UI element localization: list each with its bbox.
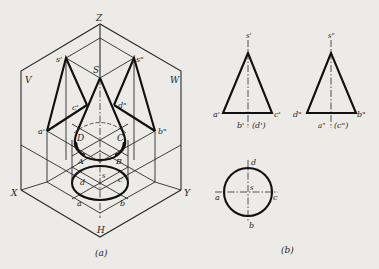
front-right-label: c' xyxy=(274,110,281,119)
side-center-label-2: (c") xyxy=(334,121,348,130)
side-view-triangle xyxy=(307,53,356,113)
front-view: s' a' c' b' (d') xyxy=(213,32,281,130)
label-S: S xyxy=(93,65,99,75)
side-view: s" d" b" a" (c") xyxy=(293,32,366,130)
label-z: Z xyxy=(95,13,103,23)
label-s: s xyxy=(102,172,106,180)
top-view-d-label: d xyxy=(251,158,256,167)
label-x: X xyxy=(10,188,18,198)
top-view-a-label: a xyxy=(215,193,220,202)
front-center-label-1: b' xyxy=(237,121,244,130)
label-s-prime: s' xyxy=(56,55,62,64)
side-apex-label: s" xyxy=(328,32,335,40)
top-view-c-label: c xyxy=(273,193,278,202)
line-ground-right xyxy=(155,182,181,190)
label-d-double: d" xyxy=(118,101,127,110)
front-left-label: a' xyxy=(213,110,220,119)
cone-projection-figure: Z V W X Y H s' s" S c' d" a' b" D C A B … xyxy=(0,0,379,269)
cone-left-edge xyxy=(75,78,100,155)
label-y: Y xyxy=(184,188,191,198)
label-s-double: s" xyxy=(136,55,144,64)
side-center-label-1: a" xyxy=(318,122,325,130)
label-plane-v: V xyxy=(25,75,33,85)
front-view-triangle xyxy=(223,53,272,113)
label-b-double: b" xyxy=(158,127,167,136)
top-view: d b a c s xyxy=(215,158,278,230)
label-plane-w: W xyxy=(170,75,180,85)
label-plane-h: H xyxy=(96,225,105,235)
label-B: B xyxy=(115,157,122,166)
label-a-prime: a' xyxy=(38,127,45,136)
label-c-prime: c' xyxy=(72,103,79,112)
figure-a-isometric-projection: Z V W X Y H s' s" S c' d" a' b" D C A B … xyxy=(10,13,191,258)
figure-b-orthographic-views: s' a' c' b' (d') s" d" b" a" (c") d b a … xyxy=(213,32,366,255)
label-c: c xyxy=(118,175,123,184)
label-d: d xyxy=(80,178,85,187)
side-right-label: b" xyxy=(357,110,366,119)
front-apex-label: s' xyxy=(246,32,252,40)
label-a: a xyxy=(77,199,82,208)
caption-a: (a) xyxy=(95,248,108,258)
line-ground-left xyxy=(21,182,47,190)
side-view-cone-outline xyxy=(114,58,155,131)
top-view-s-label: s xyxy=(250,184,254,192)
front-center-label-2: (d') xyxy=(252,121,266,130)
label-C: C xyxy=(117,133,124,143)
label-b: b xyxy=(120,199,125,208)
caption-b: (b) xyxy=(281,245,294,255)
label-D: D xyxy=(76,133,84,143)
label-A: A xyxy=(77,157,84,166)
top-view-b-label: b xyxy=(249,221,254,230)
side-left-label: d" xyxy=(293,110,302,119)
